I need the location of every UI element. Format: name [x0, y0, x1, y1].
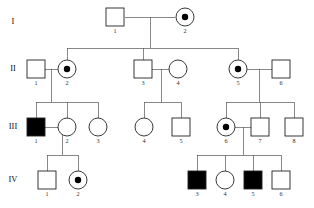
- male-square-ii-1[interactable]: [27, 60, 45, 78]
- carrier-dot-iv-2: [75, 177, 81, 183]
- carrier-dot-i-2: [182, 14, 188, 20]
- individual-number-iii-2: 2: [65, 137, 68, 144]
- individual-number-ii-1: 1: [34, 79, 37, 86]
- male-square-iv-1[interactable]: [38, 171, 56, 189]
- individual-number-iv-5: 5: [251, 190, 254, 197]
- individual-iii-5[interactable]: 5: [172, 118, 190, 144]
- individual-number-ii-5: 5: [236, 79, 239, 86]
- individual-number-iv-1: 1: [45, 190, 48, 197]
- male-square-iv-5[interactable]: [244, 171, 262, 189]
- individual-number-iii-7: 7: [258, 137, 261, 144]
- individual-number-ii-4: 4: [176, 79, 179, 86]
- individual-iii-1[interactable]: 1: [27, 118, 45, 144]
- individual-iv-3[interactable]: 3: [188, 171, 206, 197]
- generation-label-i: I: [12, 16, 15, 26]
- carrier-dot-ii-2: [64, 66, 70, 72]
- individual-ii-1[interactable]: 1: [27, 60, 45, 86]
- individual-i-1[interactable]: 1: [106, 8, 124, 34]
- female-circle-ii-4[interactable]: [169, 60, 187, 78]
- carrier-dot-ii-5: [235, 66, 241, 72]
- generation-label-iii: III: [9, 121, 18, 131]
- individual-number-iv-3: 3: [195, 190, 198, 197]
- male-square-iv-3[interactable]: [188, 171, 206, 189]
- individual-iii-8[interactable]: 8: [285, 118, 303, 144]
- pedigree-canvas: 1212345612345678123456 IIIIIIIV: [0, 0, 314, 208]
- female-circle-iii-4[interactable]: [135, 118, 153, 136]
- individual-number-i-1: 1: [113, 27, 116, 34]
- individual-i-2[interactable]: 2: [176, 8, 194, 34]
- individual-number-ii-3: 3: [141, 79, 144, 86]
- individual-number-ii-6: 6: [279, 79, 282, 86]
- individual-iii-6[interactable]: 6: [217, 118, 235, 144]
- individual-number-iii-8: 8: [292, 137, 295, 144]
- male-square-iii-1[interactable]: [27, 118, 45, 136]
- male-square-ii-6[interactable]: [272, 60, 290, 78]
- individual-number-iv-4: 4: [223, 190, 226, 197]
- individual-symbols-layer: 1212345612345678123456: [27, 8, 303, 197]
- male-square-ii-3[interactable]: [134, 60, 152, 78]
- male-square-iv-6[interactable]: [272, 171, 290, 189]
- individual-number-iv-2: 2: [76, 190, 79, 197]
- male-square-iii-8[interactable]: [285, 118, 303, 136]
- individual-number-iii-6: 6: [224, 137, 227, 144]
- individual-iv-2[interactable]: 2: [69, 171, 87, 197]
- male-square-iii-7[interactable]: [251, 118, 269, 136]
- individual-iii-4[interactable]: 4: [135, 118, 153, 144]
- connection-lines-layer: [36, 17, 294, 171]
- male-square-iii-5[interactable]: [172, 118, 190, 136]
- carrier-dot-iii-6: [223, 124, 229, 130]
- generation-label-ii: II: [10, 63, 16, 73]
- individual-iii-2[interactable]: 2: [58, 118, 76, 144]
- generation-label-iv: IV: [9, 174, 19, 184]
- female-circle-iii-3[interactable]: [89, 118, 107, 136]
- individual-iv-5[interactable]: 5: [244, 171, 262, 197]
- individual-number-iii-3: 3: [96, 137, 99, 144]
- individual-number-iv-6: 6: [279, 190, 282, 197]
- individual-iv-1[interactable]: 1: [38, 171, 56, 197]
- generation-labels-layer: IIIIIIIV: [9, 16, 19, 184]
- female-circle-iii-2[interactable]: [58, 118, 76, 136]
- individual-number-iii-5: 5: [179, 137, 182, 144]
- pedigree-chart: 1212345612345678123456 IIIIIIIV: [0, 0, 314, 208]
- female-circle-iv-4[interactable]: [216, 171, 234, 189]
- individual-ii-6[interactable]: 6: [272, 60, 290, 86]
- male-square-i-1[interactable]: [106, 8, 124, 26]
- individual-ii-3[interactable]: 3: [134, 60, 152, 86]
- individual-ii-2[interactable]: 2: [58, 60, 76, 86]
- individual-iv-4[interactable]: 4: [216, 171, 234, 197]
- individual-number-ii-2: 2: [65, 79, 68, 86]
- individual-number-iii-1: 1: [34, 137, 37, 144]
- individual-ii-5[interactable]: 5: [229, 60, 247, 86]
- individual-ii-4[interactable]: 4: [169, 60, 187, 86]
- individual-number-iii-4: 4: [142, 137, 145, 144]
- individual-iv-6[interactable]: 6: [272, 171, 290, 197]
- individual-iii-3[interactable]: 3: [89, 118, 107, 144]
- individual-iii-7[interactable]: 7: [251, 118, 269, 144]
- individual-number-i-2: 2: [183, 27, 186, 34]
